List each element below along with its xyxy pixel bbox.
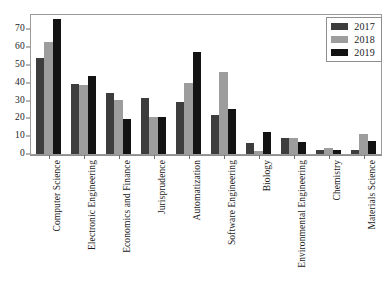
x-axis-tick-mark bbox=[84, 155, 85, 159]
bar-2017[interactable] bbox=[246, 143, 254, 154]
x-axis-tick-mark bbox=[154, 155, 155, 159]
x-axis-category-label: Materials Science bbox=[368, 160, 378, 230]
x-axis-tick-mark bbox=[294, 155, 295, 159]
bar-2017[interactable] bbox=[351, 150, 359, 154]
bar-2017[interactable] bbox=[71, 84, 79, 154]
bar-2019[interactable] bbox=[88, 76, 96, 154]
legend-swatch-icon-2017 bbox=[331, 23, 348, 30]
bar-group bbox=[106, 15, 131, 154]
bar-2018[interactable] bbox=[254, 151, 262, 154]
y-axis: 010203040506070 bbox=[0, 14, 30, 155]
bar-2018[interactable] bbox=[219, 72, 227, 154]
legend-label-2018: 2018 bbox=[354, 35, 375, 45]
x-axis-category-label: Computer Science bbox=[53, 160, 63, 232]
bar-2019[interactable] bbox=[333, 150, 341, 154]
bar-group bbox=[71, 15, 96, 154]
y-axis-tick-label: 60 bbox=[15, 42, 25, 52]
x-axis-labels: Computer ScienceElectronic EngineeringEc… bbox=[31, 160, 381, 290]
x-axis-category-label: Biology bbox=[263, 160, 273, 191]
legend-item-2019[interactable]: 2019 bbox=[331, 47, 375, 58]
x-axis-tick-mark bbox=[259, 155, 260, 159]
bar-2018[interactable] bbox=[79, 85, 87, 154]
bar-2019[interactable] bbox=[228, 109, 236, 154]
y-axis-tick-label: 0 bbox=[20, 149, 25, 159]
bar-group bbox=[176, 15, 201, 154]
x-axis-tick-mark bbox=[329, 155, 330, 159]
bar-2017[interactable] bbox=[316, 150, 324, 154]
bar-2017[interactable] bbox=[36, 58, 44, 154]
bar-group bbox=[281, 15, 306, 154]
x-axis-category-label: Software Engineering bbox=[228, 160, 238, 245]
bar-2018[interactable] bbox=[149, 117, 157, 154]
legend: 2017 2018 2019 bbox=[326, 17, 382, 62]
x-axis-tick-mark bbox=[119, 155, 120, 159]
bar-group bbox=[36, 15, 61, 154]
bar-2018[interactable] bbox=[184, 83, 192, 154]
x-axis-category-label: Economics and Finance bbox=[123, 160, 133, 253]
legend-swatch-icon-2018 bbox=[331, 36, 348, 43]
bar-2017[interactable] bbox=[106, 93, 114, 154]
y-axis-tick-label: 10 bbox=[15, 131, 25, 141]
y-axis-tick-label: 50 bbox=[15, 60, 25, 70]
bar-2019[interactable] bbox=[298, 142, 306, 154]
y-axis-tick-label: 20 bbox=[15, 114, 25, 124]
x-axis-category-label: Chemistry bbox=[333, 160, 343, 200]
bar-2019[interactable] bbox=[53, 19, 61, 154]
x-axis-category-label: Environmental Engineering bbox=[298, 160, 308, 268]
legend-item-2017[interactable]: 2017 bbox=[331, 21, 375, 32]
x-axis-category-label: Electronic Engineering bbox=[88, 160, 98, 250]
x-axis-category-label: Automatization bbox=[193, 160, 203, 221]
x-axis-tick-mark bbox=[49, 155, 50, 159]
bar-2018[interactable] bbox=[44, 42, 52, 154]
bar-2017[interactable] bbox=[176, 102, 184, 154]
bar-group bbox=[141, 15, 166, 154]
legend-swatch-icon-2019 bbox=[331, 49, 348, 56]
bar-2019[interactable] bbox=[158, 117, 166, 154]
legend-item-2018[interactable]: 2018 bbox=[331, 34, 375, 45]
bar-group bbox=[211, 15, 236, 154]
bar-2018[interactable] bbox=[359, 134, 367, 154]
x-axis-tick-mark bbox=[364, 155, 365, 159]
x-axis-tick-mark bbox=[224, 155, 225, 159]
x-axis-category-label: Jurisprudence bbox=[158, 160, 168, 214]
bar-2019[interactable] bbox=[263, 132, 271, 154]
bar-2017[interactable] bbox=[141, 98, 149, 154]
x-axis-tick-mark bbox=[189, 155, 190, 159]
bar-2019[interactable] bbox=[368, 141, 376, 154]
bar-group bbox=[246, 15, 271, 154]
legend-label-2019: 2019 bbox=[354, 48, 375, 58]
bar-2017[interactable] bbox=[281, 138, 289, 154]
bar-2019[interactable] bbox=[193, 52, 201, 154]
bar-2018[interactable] bbox=[289, 138, 297, 154]
y-axis-tick-label: 30 bbox=[15, 96, 25, 106]
legend-label-2017: 2017 bbox=[354, 22, 375, 32]
y-axis-tick-label: 70 bbox=[15, 25, 25, 35]
bar-2018[interactable] bbox=[324, 148, 332, 154]
y-axis-tick-label: 40 bbox=[15, 78, 25, 88]
bar-2018[interactable] bbox=[114, 100, 122, 154]
bar-2017[interactable] bbox=[211, 115, 219, 154]
bar-chart-figure: 010203040506070 Computer ScienceElectron… bbox=[0, 0, 388, 292]
bar-2019[interactable] bbox=[123, 119, 131, 154]
